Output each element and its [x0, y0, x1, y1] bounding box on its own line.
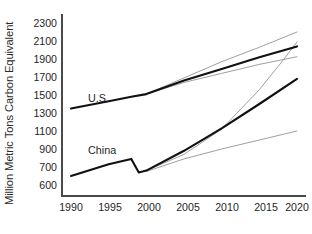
y-tick-2100: 2100: [33, 35, 57, 47]
y-tick-1300: 1300: [33, 107, 57, 119]
series-label-china: China: [88, 144, 116, 156]
x-tick-2005: 2005: [176, 201, 200, 213]
y-tick-1900: 1900: [33, 53, 57, 65]
x-tick-1990: 1990: [59, 201, 83, 213]
series-us-projection-high: [146, 32, 297, 94]
series-china-projection-low: [146, 131, 297, 172]
x-tick-1995: 1995: [98, 201, 122, 213]
axis-spines: [62, 14, 306, 196]
y-tick-1700: 1700: [33, 71, 57, 83]
x-tick-2000: 2000: [137, 201, 161, 213]
x-tick-2010: 2010: [215, 201, 239, 213]
y-tick-700: 700: [39, 161, 57, 173]
y-tick-1100: 1100: [34, 125, 57, 137]
x-tick-2020: 2020: [285, 201, 309, 213]
y-axis-tick-labels: 2300 2100 1900 1700 1500 1300 1100 900 7…: [33, 17, 57, 191]
y-tick-900: 900: [39, 143, 57, 155]
series-label-us: U.S.: [88, 92, 109, 104]
y-tick-1500: 1500: [33, 89, 57, 101]
x-tick-2015: 2015: [254, 201, 278, 213]
y-tick-600: 600: [39, 179, 57, 191]
y-axis-title: Million Metric Tons Carbon Equivalent: [3, 21, 15, 205]
series-us-projection-low: [146, 57, 297, 94]
y-tick-2300: 2300: [33, 17, 57, 29]
chart-container: Million Metric Tons Carbon Equivalent 23…: [0, 0, 312, 234]
line-chart: Million Metric Tons Carbon Equivalent 23…: [0, 0, 312, 234]
x-axis-tick-labels: 1990 1995 2000 2005 2010 2015 2020: [59, 201, 309, 213]
